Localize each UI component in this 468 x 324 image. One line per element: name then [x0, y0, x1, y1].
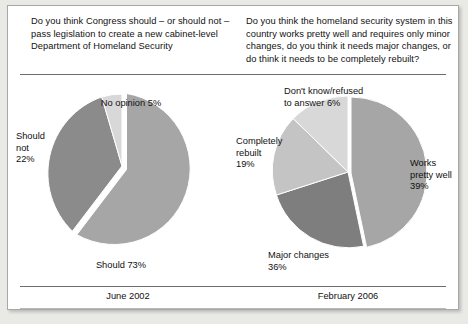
question-row: Do you think Congress should – or should…	[8, 6, 458, 74]
date-row: June 2002 February 2006	[8, 287, 458, 309]
pie-label-major-changes: Major changes 36%	[268, 250, 368, 273]
date-label-right: February 2006	[253, 291, 443, 301]
divider-baseline	[20, 308, 446, 309]
pie-label-no-opinion: No opinion 5%	[66, 98, 196, 110]
question-text-left: Do you think Congress should – or should…	[31, 15, 236, 53]
figure-frame: Do you think Congress should – or should…	[7, 5, 459, 310]
pie-chart-june-2002	[44, 88, 202, 246]
pie-label-works-pretty-well: Works pretty well 39%	[410, 158, 468, 193]
chart-panel-right: Don't know/refused to answer 6% Complete…	[236, 74, 460, 286]
date-label-left: June 2002	[38, 291, 218, 301]
pie-label-completely-rebuilt: Completely rebuilt 19%	[236, 136, 298, 171]
pie-label-should: Should 73%	[56, 260, 186, 272]
pie-chart-february-2006	[264, 88, 432, 256]
question-text-right: Do you think the homeland security syste…	[246, 15, 458, 65]
pie-label-should-not: Should not 22%	[16, 131, 68, 166]
chart-panel-left: No opinion 5% Should not 22% Should 73%	[8, 74, 236, 286]
pie-label-dont-know: Don't know/refused to answer 6%	[284, 86, 414, 109]
